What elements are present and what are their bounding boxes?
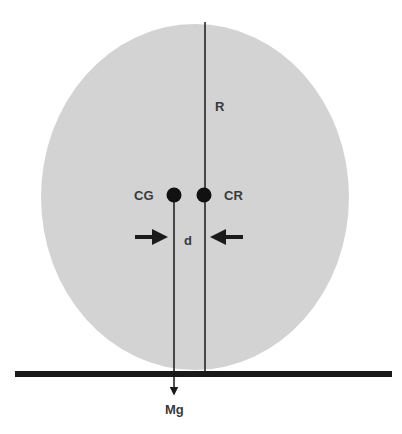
cr-label: CR bbox=[224, 188, 243, 203]
cg-label: CG bbox=[134, 188, 154, 203]
center-of-gravity-dot bbox=[167, 188, 182, 203]
weight-label: Mg bbox=[165, 402, 184, 417]
center-of-rotation-dot bbox=[197, 188, 212, 203]
free-body-diagram: R CG CR d Mg bbox=[0, 0, 402, 434]
radius-label: R bbox=[215, 99, 225, 114]
body-ellipse bbox=[41, 24, 349, 370]
ground-line bbox=[15, 371, 392, 377]
offset-label: d bbox=[184, 233, 192, 248]
